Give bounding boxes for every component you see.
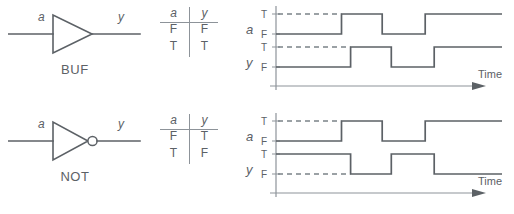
truth-table-panel-buf: a F T y F T xyxy=(150,0,230,107)
svg-text:F: F xyxy=(261,136,267,147)
truth-table-header-y: y xyxy=(189,6,220,21)
truth-table-cell: T xyxy=(189,128,220,145)
truth-table-panel-not: a F T y T F xyxy=(150,107,230,214)
truth-table-header-a: a xyxy=(158,113,189,128)
waveform-panel-not: a y TFTF Time xyxy=(230,107,514,214)
gate-name-buf: BUF xyxy=(0,62,150,77)
truth-table-header-y: y xyxy=(189,113,220,128)
truth-table-column-y: y F T xyxy=(189,6,220,55)
svg-text:F: F xyxy=(261,62,267,73)
truth-table-cell: F xyxy=(189,145,220,162)
svg-text:T: T xyxy=(261,9,267,20)
inverter-bubble-icon xyxy=(88,136,97,145)
gate-name-not: NOT xyxy=(0,169,150,184)
truth-table-cell: T xyxy=(158,38,189,55)
truth-table-column-a: a F T xyxy=(158,6,189,55)
gate-section-not: a y NOT a F T xyxy=(0,107,514,214)
svg-text:T: T xyxy=(261,116,267,127)
truth-table-cell: F xyxy=(158,21,189,38)
figure-sheet: a y BUF a F T xyxy=(0,0,514,214)
truth-table-not: a F T y T F xyxy=(158,113,220,165)
waveform-axis-label-time: Time xyxy=(478,175,502,187)
gate-symbol-panel-not: a y NOT xyxy=(0,107,150,214)
waveform-panel-buf: a y TFTF Time xyxy=(230,0,514,107)
svg-text:F: F xyxy=(261,29,267,40)
buffer-gate-icon xyxy=(8,8,148,60)
inverter-gate-icon xyxy=(8,115,148,167)
truth-table-cell: T xyxy=(158,145,189,162)
waveform-diagram-not: TFTF xyxy=(230,107,514,214)
svg-text:T: T xyxy=(261,149,267,160)
truth-table-cell: T xyxy=(189,38,220,55)
gate-symbol-panel-buf: a y BUF xyxy=(0,0,150,107)
gate-section-buf: a y BUF a F T xyxy=(0,0,514,107)
truth-table-cell: F xyxy=(189,21,220,38)
svg-text:T: T xyxy=(261,42,267,53)
svg-text:F: F xyxy=(261,169,267,180)
truth-table-column-a: a F T xyxy=(158,113,189,162)
waveform-diagram-buf: TFTF xyxy=(230,0,514,107)
truth-table-buf: a F T y F T xyxy=(158,6,220,58)
waveform-axis-label-time: Time xyxy=(478,68,502,80)
truth-table-header-a: a xyxy=(158,6,189,21)
truth-table-cell: F xyxy=(158,128,189,145)
truth-table-column-y: y T F xyxy=(189,113,220,162)
